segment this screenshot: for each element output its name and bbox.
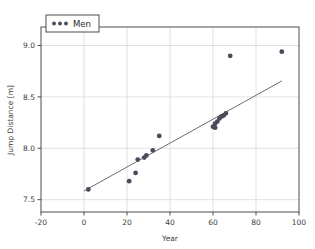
data-point xyxy=(224,111,229,116)
legend-marker-dot-1 xyxy=(52,22,56,26)
y-axis-title: Jump Distance [m] xyxy=(6,85,15,156)
x-tick-label-1: 0 xyxy=(82,218,87,227)
x-tick-label-3: 40 xyxy=(165,218,175,227)
data-point xyxy=(157,134,162,139)
x-tick-label-2: 20 xyxy=(122,218,132,227)
y-axis-ticks: 7.58.08.59.0 xyxy=(23,41,41,204)
data-point xyxy=(228,53,233,58)
legend-marker-dot-3 xyxy=(64,22,68,26)
x-tick-label-0: -20 xyxy=(35,218,47,227)
legend-marker-dot-2 xyxy=(58,22,62,26)
data-point xyxy=(127,179,132,184)
data-point xyxy=(144,153,149,158)
x-tick-label-6: 100 xyxy=(292,218,307,227)
y-tick-label-2: 8.5 xyxy=(23,93,35,102)
x-axis-title: Year xyxy=(161,234,179,243)
x-axis-ticks: -20020406080100 xyxy=(35,212,307,227)
data-point xyxy=(150,148,155,153)
x-tick-label-5: 80 xyxy=(251,218,261,227)
y-tick-label-0: 7.5 xyxy=(23,195,35,204)
legend[interactable]: Men xyxy=(46,15,99,32)
legend-entry-label: Men xyxy=(73,19,91,29)
data-point xyxy=(213,125,218,130)
data-point xyxy=(135,157,140,162)
x-tick-label-4: 60 xyxy=(208,218,218,227)
scatter-plot: -20020406080100 7.58.08.59.0 Year Jump D… xyxy=(0,0,315,249)
y-tick-label-3: 9.0 xyxy=(23,41,35,50)
data-point xyxy=(86,187,91,192)
data-point xyxy=(279,49,284,54)
y-tick-label-1: 8.0 xyxy=(23,144,35,153)
data-point xyxy=(133,171,138,176)
figure-canvas: -20020406080100 7.58.08.59.0 Year Jump D… xyxy=(0,0,315,249)
